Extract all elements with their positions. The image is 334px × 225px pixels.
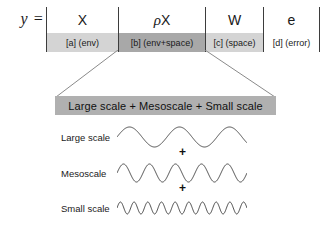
decomposition-headline: Large scale + Mesoscale + Small scale <box>55 96 276 115</box>
figure-root: y = X[a] (env)ρX[b] (env+space)W[c] (spa… <box>0 0 334 225</box>
term-letter: X <box>78 12 87 28</box>
scale-label-3: Small scale <box>61 203 110 214</box>
scale-row-1: Large scale <box>55 122 255 152</box>
term-symbol-4: e <box>264 7 319 34</box>
plus-operator-1: + <box>179 146 186 158</box>
term-column-3: W[c] (space) <box>205 7 263 52</box>
term-column-4: e[d] (error) <box>263 7 320 52</box>
term-letter: X <box>161 12 170 28</box>
term-letter: W <box>228 12 241 28</box>
waveform-3 <box>117 193 247 223</box>
funnel-connector <box>0 50 334 100</box>
term-symbol-1: X <box>47 7 118 34</box>
scale-label-2: Mesoscale <box>61 168 106 179</box>
rho-symbol: ρ <box>154 12 161 29</box>
plus-operator-2: + <box>179 182 186 194</box>
scale-row-3: Small scale <box>55 193 255 223</box>
terms-table: X[a] (env)ρX[b] (env+space)W[c] (space)e… <box>46 7 320 52</box>
equation-left-hand-side: y = <box>6 10 44 28</box>
term-column-2: ρX[b] (env+space) <box>118 7 205 52</box>
term-letter: e <box>288 12 296 28</box>
term-column-1: X[a] (env) <box>46 7 118 52</box>
term-symbol-3: W <box>206 7 263 34</box>
scale-row-2: Mesoscale <box>55 158 255 188</box>
scale-label-1: Large scale <box>61 132 110 143</box>
term-symbol-2: ρX <box>119 7 205 34</box>
